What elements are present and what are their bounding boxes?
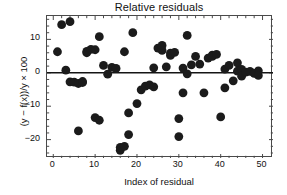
data-point — [78, 77, 87, 86]
data-point — [149, 82, 158, 91]
data-point — [191, 52, 200, 61]
data-point — [128, 28, 137, 37]
data-point — [120, 47, 129, 56]
data-point — [95, 116, 104, 125]
data-point — [74, 127, 83, 136]
y-tick-label: −10 — [25, 100, 40, 109]
data-point — [91, 45, 100, 54]
y-axis-tick-labels: 100−10−20 — [0, 15, 44, 157]
data-point — [212, 50, 221, 59]
data-point — [99, 61, 108, 70]
y-tick-label: −20 — [25, 134, 40, 143]
data-point — [220, 83, 229, 92]
x-tick-label: 10 — [89, 159, 99, 169]
data-point — [216, 113, 225, 122]
data-point — [183, 31, 192, 40]
data-point — [53, 47, 62, 56]
data-point — [133, 99, 142, 108]
data-point — [174, 114, 183, 123]
y-tick-label: 10 — [30, 33, 40, 42]
x-tick-label: 20 — [131, 159, 141, 169]
data-point — [149, 63, 158, 72]
x-axis-label: Index of residual — [46, 176, 272, 187]
data-point — [170, 48, 179, 57]
data-point — [174, 132, 183, 141]
data-point — [61, 66, 70, 75]
data-point — [120, 142, 129, 151]
data-point — [124, 108, 133, 117]
x-tick-label: 30 — [173, 159, 183, 169]
data-point — [158, 41, 167, 50]
x-tick-label: 50 — [257, 159, 267, 169]
data-point — [229, 76, 238, 85]
relative-residuals-figure: Relative residuals (y − f(x))/y × 100 10… — [0, 0, 287, 195]
x-tick-label: 40 — [215, 159, 225, 169]
data-point — [187, 60, 196, 69]
data-point — [124, 130, 133, 139]
data-points-group — [53, 17, 263, 154]
data-point — [195, 60, 204, 69]
data-point — [57, 20, 66, 29]
data-point — [95, 32, 104, 41]
data-point — [162, 62, 171, 71]
y-tick-label: 0 — [35, 67, 40, 76]
x-tick-label: 0 — [50, 159, 55, 169]
data-point — [183, 69, 192, 78]
x-axis-tick-labels: 01020304050 — [46, 159, 272, 173]
data-point — [254, 71, 263, 80]
data-point — [200, 88, 209, 97]
data-point — [66, 17, 75, 26]
page-title: Relative residuals — [46, 1, 272, 13]
scatter-plot-canvas — [47, 16, 273, 158]
plot-area — [46, 15, 272, 157]
data-point — [225, 61, 234, 70]
data-point — [179, 88, 188, 97]
data-point — [112, 64, 121, 73]
